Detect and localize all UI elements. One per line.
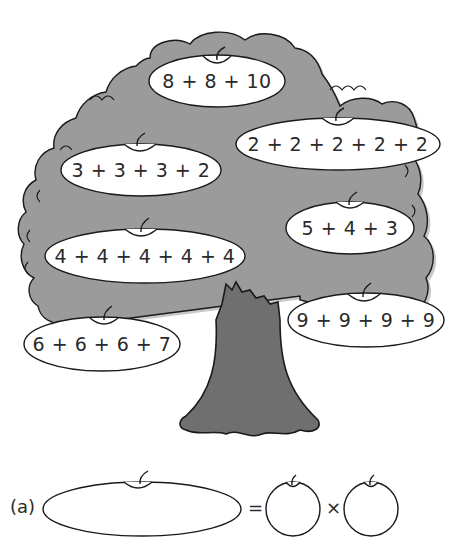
question-a-label: (a) (10, 496, 35, 517)
apple-4-expression: 5 + 4 + 3 (286, 213, 414, 243)
apple-1-expression: 8 + 8 + 10 (149, 66, 285, 96)
factor1-input[interactable] (270, 494, 316, 524)
apple-3-expression: 3 + 3 + 3 + 2 (61, 155, 221, 185)
factor2-input[interactable] (348, 494, 394, 524)
apple-7-expression: 6 + 6 + 6 + 7 (24, 329, 180, 359)
times-sign: × (326, 497, 341, 518)
apple-2-expression: 2 + 2 + 2 + 2 + 2 (236, 129, 440, 159)
apple-5-expression: 4 + 4 + 4 + 4 + 4 (45, 241, 245, 271)
equals-sign: = (248, 497, 263, 518)
answer-sum-input[interactable] (50, 494, 234, 524)
apple-6-expression: 9 + 9 + 9 + 9 (288, 305, 444, 335)
